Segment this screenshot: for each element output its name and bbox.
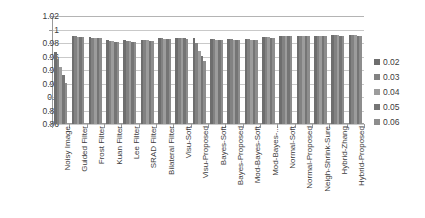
x-axis-category-label: Hybrid-Proposed bbox=[358, 126, 366, 186]
bar bbox=[117, 42, 120, 124]
bar-group bbox=[104, 16, 121, 124]
bar bbox=[324, 36, 327, 124]
bar bbox=[290, 36, 293, 124]
bar-group bbox=[277, 16, 294, 124]
legend-item[interactable]: 0.03 bbox=[374, 73, 400, 82]
bar bbox=[359, 36, 362, 124]
bar-group bbox=[52, 16, 69, 124]
x-axis-category-label: Frost Filter bbox=[98, 126, 106, 164]
legend-swatch-icon bbox=[374, 119, 380, 125]
chart-legend: 0.020.030.040.050.06 bbox=[374, 58, 400, 127]
legend-swatch-icon bbox=[374, 74, 380, 80]
bar-group bbox=[191, 16, 208, 124]
bar-group bbox=[69, 16, 86, 124]
legend-swatch-icon bbox=[374, 59, 380, 65]
x-axis-category-label: Guided Filter bbox=[81, 126, 89, 172]
bar bbox=[186, 39, 189, 124]
bar bbox=[272, 38, 275, 124]
legend-swatch-icon bbox=[374, 104, 380, 110]
x-axis-category-label: SRAD Filter bbox=[150, 126, 158, 168]
x-axis-category-label: Mod-Bayes-Soft bbox=[254, 126, 262, 183]
bar bbox=[99, 38, 102, 124]
bar-group bbox=[121, 16, 138, 124]
x-axis-category-label: Normal-Proposed bbox=[306, 126, 314, 189]
x-axis-category-labels: Noisy ImageGuided FilterFrost FilterKuan… bbox=[52, 126, 364, 214]
bar bbox=[221, 40, 224, 124]
grouped-bar-chart: 1.0210.980.960.940.920.90.880.86 Noisy I… bbox=[0, 0, 425, 218]
bar bbox=[255, 40, 258, 124]
x-axis-category-label: Visu-Proposed bbox=[202, 126, 210, 178]
bar-group bbox=[295, 16, 312, 124]
x-axis-category-label: Noisy Image bbox=[64, 126, 72, 170]
bar bbox=[134, 42, 137, 124]
legend-label: 0.05 bbox=[383, 103, 400, 112]
x-axis-category-label: Visu-Soft bbox=[185, 126, 193, 158]
x-axis-category-label: Normal-Soft bbox=[289, 126, 297, 169]
legend-item[interactable]: 0.05 bbox=[374, 103, 400, 112]
bar bbox=[238, 40, 241, 124]
bar-group bbox=[139, 16, 156, 124]
x-axis-category-label: Neigh-Shrink-Sure bbox=[324, 126, 332, 192]
x-axis-category-label: Bayes-Proposed bbox=[237, 126, 245, 185]
bar-group bbox=[329, 16, 346, 124]
x-axis-category-label: Kuan Filter bbox=[116, 126, 124, 165]
bar-group bbox=[225, 16, 242, 124]
bar bbox=[203, 61, 206, 124]
x-axis-category-label: Lee Filter bbox=[133, 126, 141, 159]
x-axis-category-label: Hybrid-Zhang bbox=[341, 126, 349, 174]
x-axis-category-label: Mod-Bayes-... bbox=[272, 126, 280, 176]
legend-swatch-icon bbox=[374, 89, 380, 95]
bar-group bbox=[87, 16, 104, 124]
bar bbox=[82, 37, 85, 124]
bar-groups bbox=[52, 16, 364, 124]
legend-item[interactable]: 0.06 bbox=[374, 118, 400, 127]
x-axis-category-label: Bayes-Soft bbox=[220, 126, 228, 165]
bar-group bbox=[260, 16, 277, 124]
legend-label: 0.03 bbox=[383, 73, 400, 82]
legend-item[interactable]: 0.02 bbox=[374, 58, 400, 67]
bar-group bbox=[347, 16, 364, 124]
bar-group bbox=[173, 16, 190, 124]
bar bbox=[65, 83, 68, 124]
legend-label: 0.04 bbox=[383, 88, 400, 97]
legend-item[interactable]: 0.04 bbox=[374, 88, 400, 97]
bar bbox=[307, 36, 310, 124]
bar bbox=[342, 36, 345, 124]
bar-group bbox=[208, 16, 225, 124]
legend-label: 0.02 bbox=[383, 58, 400, 67]
x-axis-category-label: Bilateral Filter bbox=[168, 126, 176, 175]
legend-label: 0.06 bbox=[383, 118, 400, 127]
bar-group bbox=[156, 16, 173, 124]
bar bbox=[151, 41, 154, 124]
bar-group bbox=[243, 16, 260, 124]
bar bbox=[169, 39, 172, 124]
bar-group bbox=[312, 16, 329, 124]
